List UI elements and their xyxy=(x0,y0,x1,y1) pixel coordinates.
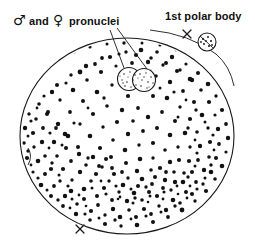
pronuclei-group xyxy=(118,68,156,92)
female-pronucleus xyxy=(133,69,156,92)
male-symbol-glyph: ♂ xyxy=(13,12,26,28)
first-polar-body xyxy=(198,33,216,51)
female-symbol-glyph: ♀ xyxy=(53,12,63,28)
pronuclei-label: pronuclei xyxy=(69,15,119,27)
polar-body-label: 1st polar body xyxy=(165,10,242,22)
figure-canvas: ♂ and ♀ pronuclei 1st polar body xyxy=(0,0,255,246)
x-mark-top xyxy=(183,30,191,38)
x-mark-bottom xyxy=(76,225,84,233)
pronuclei-conjunction: and xyxy=(29,15,49,27)
zygote-figure: ♂ and ♀ pronuclei 1st polar body xyxy=(0,0,255,246)
